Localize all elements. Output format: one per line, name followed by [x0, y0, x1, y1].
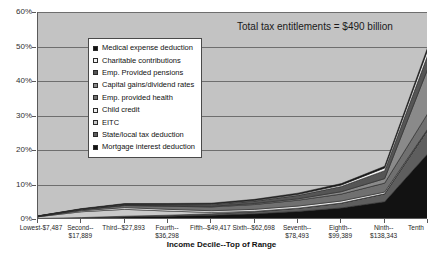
square-swatch-icon: [93, 120, 98, 125]
legend: Medical expense deductionCharitable cont…: [88, 38, 202, 158]
square-swatch-icon: [93, 83, 98, 88]
legend-item-label: State/local tax deduction: [102, 131, 184, 139]
legend-item[interactable]: Emp. provided health: [93, 92, 195, 104]
y-axis-tick-label: 50%: [0, 43, 32, 51]
x-axis-title: Income Decile--Top of Range: [0, 240, 443, 249]
legend-item-label: Emp. provided health: [102, 94, 173, 102]
y-axis-tick-label: 60%: [0, 8, 32, 16]
legend-item[interactable]: EITC: [93, 116, 195, 128]
x-axis-tick-mark: [167, 219, 168, 223]
y-axis-tick-mark: [32, 185, 36, 186]
y-axis-tick-label: 30%: [0, 112, 32, 120]
x-axis-tick-mark: [427, 219, 428, 223]
square-swatch-icon: [93, 108, 98, 113]
square-swatch-icon: [93, 145, 98, 150]
legend-item[interactable]: Emp. Provided pensions: [93, 67, 195, 79]
x-axis-tick-mark: [80, 219, 81, 223]
x-axis-tick-mark: [210, 219, 211, 223]
x-axis-tick-mark: [37, 219, 38, 223]
legend-item-label: Mortgage interest deduction: [102, 143, 195, 151]
y-axis-tick-mark: [32, 12, 36, 13]
legend-item[interactable]: Child credit: [93, 104, 195, 116]
y-axis-tick-label: 0%: [0, 215, 32, 223]
legend-item[interactable]: Charitable contributions: [93, 54, 195, 66]
y-axis-tick-mark: [32, 150, 36, 151]
y-axis-tick-label: 20%: [0, 146, 32, 154]
y-axis-tick-label: 40%: [0, 77, 32, 85]
square-swatch-icon: [93, 70, 98, 75]
legend-item[interactable]: Medical expense deduction: [93, 42, 195, 54]
chart-container: 0%10%20%30%40%50%60% Lowest-$7,487Second…: [0, 0, 443, 259]
legend-item-label: Emp. Provided pensions: [102, 69, 183, 77]
legend-item[interactable]: Capital gains/dividend rates: [93, 79, 195, 91]
x-axis-tick-mark: [384, 219, 385, 223]
y-axis-tick-mark: [32, 47, 36, 48]
square-swatch-icon: [93, 58, 98, 63]
square-swatch-icon: [93, 132, 98, 137]
legend-item-label: Charitable contributions: [102, 57, 181, 65]
x-axis-tick-label: Tenth: [389, 224, 443, 232]
y-axis-tick-mark: [32, 81, 36, 82]
legend-item-label: EITC: [102, 119, 119, 127]
total-entitlements-annotation: Total tax entitlements = $490 billion: [237, 21, 393, 32]
legend-item-label: Child credit: [102, 106, 140, 114]
x-axis-tick-mark: [124, 219, 125, 223]
x-axis-tick-mark: [254, 219, 255, 223]
y-axis-tick-mark: [32, 219, 36, 220]
square-swatch-icon: [93, 95, 98, 100]
legend-item-label: Medical expense deduction: [102, 44, 193, 52]
legend-item[interactable]: State/local tax deduction: [93, 129, 195, 141]
square-swatch-icon: [93, 46, 98, 51]
y-axis-tick-label: 10%: [0, 181, 32, 189]
y-axis-tick-mark: [32, 116, 36, 117]
x-axis-tick-mark: [340, 219, 341, 223]
legend-item[interactable]: Mortgage interest deduction: [93, 141, 195, 153]
legend-item-label: Capital gains/dividend rates: [102, 81, 194, 89]
x-axis-tick-mark: [297, 219, 298, 223]
